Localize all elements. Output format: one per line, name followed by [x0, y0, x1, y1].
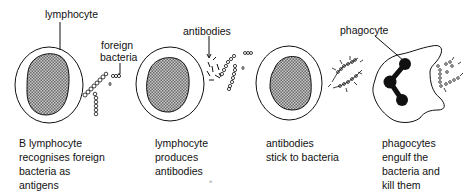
label-lymphocyte: lymphocyte	[45, 8, 98, 21]
label-phagocyte: phagocyte	[340, 24, 388, 37]
lymphocyte-cell-3	[256, 46, 322, 120]
label-antibodies: antibodies	[183, 25, 231, 38]
bacteria-chain-icon	[83, 72, 121, 116]
caption-stage-3: antibodies stick to bacteria	[266, 136, 339, 164]
antibodies-icon	[207, 57, 221, 80]
antibody-coated-bacteria-icon	[328, 56, 363, 92]
caption-stage-4: phagocytes engulf the bacteria and kill …	[382, 136, 440, 192]
label-foreign-bacteria-line2: bacteria	[100, 51, 137, 64]
b-lymphocyte-cell	[15, 47, 83, 123]
bacteria-chain-icon	[220, 52, 252, 91]
phagocyte-cell	[373, 45, 444, 122]
stray-mark: «	[209, 178, 213, 184]
engulfed-bacteria-icon	[437, 57, 463, 92]
phagocyte-pointer	[375, 36, 404, 61]
lymphocyte-cell-2	[136, 47, 204, 121]
caption-stage-1: B lymphocyte recognises foreign bacteria…	[19, 136, 105, 192]
caption-stage-2: lymphocyte produces antibodies	[155, 136, 208, 178]
